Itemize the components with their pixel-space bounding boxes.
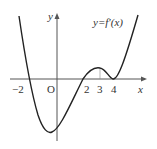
- y-axis-arrow-icon: [55, 13, 60, 19]
- x-axis-label: x: [137, 83, 143, 95]
- tick-label-3: 3: [97, 83, 103, 95]
- y-axis-label: y: [47, 10, 53, 22]
- tick-label-neg2: −2: [12, 83, 24, 95]
- origin-label: O: [47, 83, 55, 95]
- curve-label: y=f′(x): [92, 16, 123, 29]
- graph: y y=f′(x) −2 O 2 3 4 x: [0, 0, 157, 149]
- tick-label-2: 2: [84, 83, 90, 95]
- tick-label-4: 4: [111, 83, 117, 95]
- x-axis-arrow-icon: [141, 77, 147, 82]
- curve-f-prime: [19, 15, 138, 132]
